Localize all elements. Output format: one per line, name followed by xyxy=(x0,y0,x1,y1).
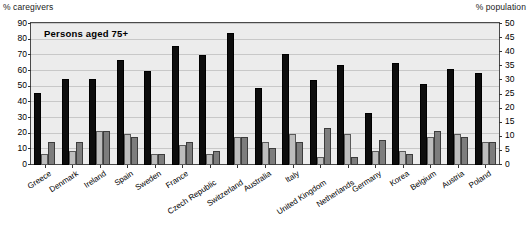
right-tick-label: 5 xyxy=(505,145,527,154)
bar-population-dark xyxy=(434,131,441,165)
category-tick xyxy=(45,165,46,168)
bar-population-dark xyxy=(324,128,331,165)
bar-group xyxy=(472,23,500,165)
bar-population-light xyxy=(41,154,48,165)
right-tick-mark xyxy=(499,122,502,123)
category-label: Denmark xyxy=(48,169,80,194)
right-tick-label: 20 xyxy=(505,103,527,112)
bar-population-dark xyxy=(406,154,413,165)
bar-population-light xyxy=(289,134,296,165)
bar-group xyxy=(114,23,142,165)
category-label: Ireland xyxy=(82,169,107,190)
grouped-bar-chart: % caregivers % population 90807060504030… xyxy=(0,0,530,231)
category-label: Germany xyxy=(351,169,383,194)
bar-caregivers xyxy=(34,93,41,165)
left-tick-label: 80 xyxy=(7,34,27,43)
left-tick-label: 10 xyxy=(7,144,27,153)
right-tick-mark xyxy=(499,94,502,95)
bars-layer xyxy=(31,23,499,165)
right-tick-mark xyxy=(499,108,502,109)
bar-population-light xyxy=(206,154,213,165)
left-tick-label: 60 xyxy=(7,66,27,75)
bar-population-light xyxy=(454,134,461,165)
left-tick-label: 30 xyxy=(7,113,27,122)
category-tick xyxy=(100,165,101,168)
category-tick xyxy=(348,165,349,168)
right-tick-label: 25 xyxy=(505,89,527,98)
bar-group xyxy=(361,23,389,165)
bar-caregivers xyxy=(337,65,344,165)
bar-population-dark xyxy=(241,137,248,165)
category-tick xyxy=(182,165,183,168)
right-tick-label: 40 xyxy=(505,47,527,56)
bar-caregivers xyxy=(172,46,179,165)
right-tick-label: 15 xyxy=(505,117,527,126)
bar-group xyxy=(141,23,169,165)
bar-caregivers xyxy=(282,54,289,165)
bar-population-light xyxy=(262,142,269,165)
bar-population-dark xyxy=(158,154,165,165)
category-tick xyxy=(155,165,156,168)
category-label: Australia xyxy=(242,169,273,193)
left-tick-label: 40 xyxy=(7,97,27,106)
category-label: Korea xyxy=(388,169,411,188)
bar-population-dark xyxy=(103,131,110,165)
bar-population-light xyxy=(234,137,241,165)
bar-caregivers xyxy=(420,84,427,165)
bar-caregivers xyxy=(310,80,317,165)
right-tick-mark xyxy=(499,37,502,38)
right-tick-label: 0 xyxy=(505,160,527,169)
left-axis-caption: % caregivers xyxy=(3,2,53,12)
bar-population-dark xyxy=(351,157,358,165)
bar-population-dark xyxy=(76,142,83,165)
category-tick xyxy=(458,165,459,168)
bar-population-dark xyxy=(186,142,193,165)
bar-caregivers xyxy=(62,79,69,165)
bar-caregivers xyxy=(447,69,454,165)
bar-caregivers xyxy=(117,60,124,165)
bar-population-dark xyxy=(48,142,55,165)
category-labels: GreeceDenmarkIrelandSpainSwedenFranceCze… xyxy=(31,167,499,229)
category-label: Sweden xyxy=(134,169,163,192)
right-tick-label: 45 xyxy=(505,33,527,42)
bar-caregivers xyxy=(365,113,372,165)
bar-group xyxy=(31,23,59,165)
bar-caregivers xyxy=(144,71,151,165)
right-tick-label: 50 xyxy=(505,19,527,28)
category-tick xyxy=(210,165,211,168)
right-tick-mark xyxy=(499,150,502,151)
bar-population-light xyxy=(482,142,489,165)
right-tick-mark xyxy=(499,79,502,80)
bar-caregivers xyxy=(89,79,96,165)
bar-group xyxy=(279,23,307,165)
bar-caregivers xyxy=(255,88,262,165)
category-label: Italy xyxy=(283,169,300,185)
category-tick xyxy=(72,165,73,168)
category-tick xyxy=(430,165,431,168)
right-tick-label: 30 xyxy=(505,75,527,84)
bar-population-dark xyxy=(489,142,496,165)
category-label: Spain xyxy=(113,169,135,188)
bar-population-light xyxy=(427,137,434,165)
bar-group xyxy=(169,23,197,165)
left-tick-label: 50 xyxy=(7,81,27,90)
bar-caregivers xyxy=(475,73,482,165)
bar-group xyxy=(224,23,252,165)
right-tick-mark xyxy=(499,51,502,52)
left-tick-label: 0 xyxy=(7,160,27,169)
bar-population-dark xyxy=(131,137,138,165)
bar-population-light xyxy=(399,151,406,165)
left-tick-label: 90 xyxy=(7,19,27,28)
bar-population-light xyxy=(151,154,158,165)
bar-group xyxy=(306,23,334,165)
bar-population-light xyxy=(124,134,131,165)
category-label: Poland xyxy=(467,169,493,190)
bar-caregivers xyxy=(199,55,206,165)
category-tick xyxy=(403,165,404,168)
category-tick xyxy=(265,165,266,168)
bar-population-light xyxy=(96,131,103,165)
bar-population-light xyxy=(179,145,186,165)
bar-population-dark xyxy=(213,151,220,165)
category-tick xyxy=(293,165,294,168)
category-tick xyxy=(485,165,486,168)
